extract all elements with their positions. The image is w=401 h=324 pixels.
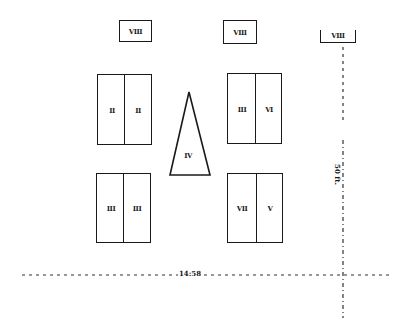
block-label-left: II	[109, 105, 115, 114]
block-label-right: V	[268, 204, 273, 213]
horizontal-dimension-label: 14:58	[178, 269, 202, 278]
block-label-right: III	[133, 204, 141, 213]
small-block-center: VIII	[223, 20, 257, 44]
block-label: VIII	[331, 31, 344, 40]
vertical-dimension-label: 50 ft.	[333, 163, 342, 186]
block-label-left: III	[107, 204, 115, 213]
small-block-right: VIII	[320, 30, 356, 43]
small-block-left: VIII	[119, 20, 152, 42]
block-label: VIII	[129, 27, 142, 36]
block-label-right: VI	[265, 104, 273, 113]
block-label-left: III	[238, 104, 246, 113]
block-label-right: II	[135, 105, 141, 114]
triangle-building	[170, 92, 210, 175]
triangle-label: IV	[184, 151, 192, 160]
double-block-top-left: II II	[97, 74, 152, 145]
double-block-bottom-right: VII V	[227, 173, 283, 243]
block-label: VIII	[233, 28, 246, 37]
double-block-bottom-left: III III	[96, 173, 151, 243]
double-block-top-right: III VI	[227, 73, 282, 144]
block-label-left: VII	[237, 204, 247, 213]
